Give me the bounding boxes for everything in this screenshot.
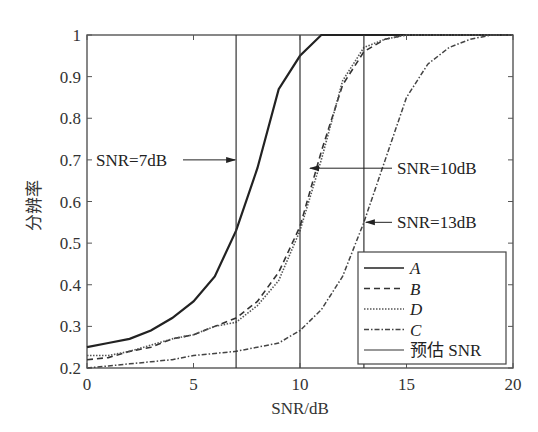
y-tick-label: 0.7	[60, 151, 82, 170]
y-tick-label: 0.9	[60, 68, 81, 87]
chart: 051015200.20.30.40.50.60.70.80.91 SNR=7d…	[0, 0, 538, 432]
legend: ABDC预估 SNR	[358, 252, 506, 364]
y-axis-title: 分辨率	[25, 180, 44, 231]
legend-label: D	[409, 300, 423, 319]
y-tick-label: 0.5	[60, 234, 81, 253]
y-tick-label: 0.3	[60, 317, 81, 336]
x-tick-label: 10	[292, 375, 309, 394]
legend-label: B	[410, 280, 421, 299]
legend-label: 预估 SNR	[410, 341, 482, 360]
annotation-snr-13db: SNR=13dB	[397, 213, 477, 232]
legend-label: A	[409, 259, 421, 278]
x-tick-label: 15	[398, 375, 415, 394]
y-tick-label: 0.2	[60, 359, 81, 378]
x-axis-title: SNR/dB	[271, 399, 329, 418]
x-tick-label: 0	[83, 375, 92, 394]
y-tick-label: 0.8	[60, 109, 81, 128]
x-tick-label: 20	[505, 375, 522, 394]
y-tick-label: 0.4	[60, 276, 82, 295]
y-tick-label: 0.6	[60, 193, 81, 212]
legend-label: C	[410, 321, 422, 340]
annotation-snr-7db: SNR=7dB	[96, 151, 167, 170]
annotation-snr-10db: SNR=10dB	[397, 159, 477, 178]
x-tick-label: 5	[189, 375, 198, 394]
y-tick-label: 1	[73, 26, 82, 45]
